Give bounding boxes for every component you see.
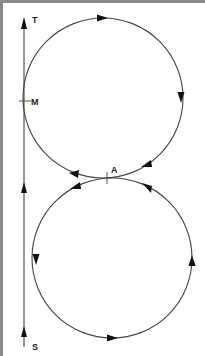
arrow-down-icon (33, 254, 40, 265)
arrow-left-icon (141, 160, 152, 167)
upper-loop (23, 18, 183, 178)
arrow-right-icon (97, 15, 108, 22)
arrow-up-icon (21, 326, 27, 337)
arrow-left-icon (142, 183, 152, 193)
figure-eight-diagram (0, 0, 205, 356)
label-t: T (32, 16, 38, 25)
diagram-frame: T M A S (0, 0, 205, 356)
arrow-up-icon (21, 182, 27, 193)
arrow-right-icon (107, 335, 118, 342)
label-s: S (32, 343, 38, 352)
lower-loop (32, 178, 192, 338)
arrow-up-icon (189, 255, 196, 266)
label-m: M (31, 98, 39, 107)
arrow-up-icon (21, 17, 27, 29)
arrow-left-icon (70, 182, 81, 189)
label-a: A (111, 166, 118, 175)
